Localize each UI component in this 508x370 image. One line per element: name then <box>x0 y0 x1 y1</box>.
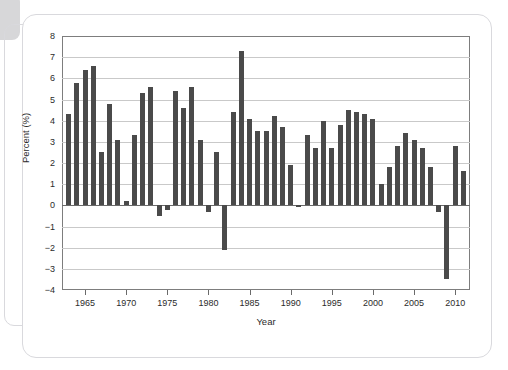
x-axis-tick <box>250 290 251 295</box>
bar <box>296 205 301 207</box>
bar <box>387 167 392 205</box>
chart-figure: Percent (%) Year 876543210−1−2−3−4 19651… <box>0 0 508 370</box>
gridline <box>62 36 470 37</box>
bar <box>338 125 343 205</box>
y-axis-tick-label: 8 <box>50 31 55 41</box>
bar <box>231 112 236 205</box>
bar <box>157 205 162 216</box>
x-axis-tick <box>167 290 168 295</box>
y-axis-tick-label: 0 <box>50 200 55 210</box>
gridline <box>62 100 470 101</box>
bar <box>206 205 211 211</box>
bar <box>189 87 194 206</box>
bar <box>132 135 137 205</box>
bar <box>444 205 449 279</box>
bar <box>124 201 129 205</box>
x-axis-tick <box>414 290 415 295</box>
y-axis-tick-label: 7 <box>50 52 55 62</box>
x-axis-tick-label: 2010 <box>445 298 465 308</box>
x-axis-tick <box>291 290 292 295</box>
y-axis-tick-label: −3 <box>45 264 55 274</box>
gridline <box>62 269 470 270</box>
bar <box>362 114 367 205</box>
y-axis-tick-label: 1 <box>50 179 55 189</box>
x-axis-title: Year <box>62 316 470 327</box>
bar <box>461 171 466 205</box>
gridline <box>62 290 470 291</box>
bar <box>148 87 153 206</box>
bar <box>313 148 318 205</box>
bar <box>264 131 269 205</box>
bar <box>329 148 334 205</box>
x-axis-tick-label: 2005 <box>404 298 424 308</box>
x-axis-tick <box>208 290 209 295</box>
y-axis-tick-label: 4 <box>50 116 55 126</box>
gridline <box>62 121 470 122</box>
y-axis-tick-label: 2 <box>50 158 55 168</box>
bar <box>140 93 145 205</box>
gridline <box>62 78 470 79</box>
x-axis-tick-label: 1990 <box>281 298 301 308</box>
x-axis-tick-label: 1965 <box>75 298 95 308</box>
bar <box>395 146 400 205</box>
gridline <box>62 227 470 228</box>
x-axis-tick-label: 2000 <box>363 298 383 308</box>
plot-area: 876543210−1−2−3−4 1965197019751980198519… <box>62 36 470 290</box>
bar <box>453 146 458 205</box>
bar <box>66 114 71 205</box>
bar <box>91 66 96 206</box>
bar <box>280 127 285 205</box>
bar <box>107 104 112 206</box>
x-axis-tick <box>85 290 86 295</box>
bar <box>214 152 219 205</box>
y-axis-tick-label: −2 <box>45 243 55 253</box>
bar <box>74 83 79 206</box>
y-axis-tick-label: 5 <box>50 95 55 105</box>
bar <box>436 205 441 211</box>
bar <box>222 205 227 249</box>
bar <box>272 116 277 205</box>
y-axis-tick-label: −1 <box>45 222 55 232</box>
y-axis-tick-label: 3 <box>50 137 55 147</box>
bar <box>173 91 178 205</box>
bar <box>288 165 293 205</box>
bar <box>346 110 351 205</box>
bar <box>420 148 425 205</box>
bar <box>428 167 433 205</box>
y-axis-title: Percent (%) <box>20 113 31 163</box>
x-axis-tick <box>373 290 374 295</box>
zero-line <box>62 205 470 206</box>
bar <box>321 121 326 206</box>
y-axis-tick-label: −4 <box>45 285 55 295</box>
x-axis-tick-label: 1985 <box>240 298 260 308</box>
x-axis-tick-label: 1975 <box>157 298 177 308</box>
x-axis-tick <box>126 290 127 295</box>
bar <box>354 112 359 205</box>
bar <box>181 108 186 205</box>
bar <box>247 119 252 206</box>
x-axis-tick-label: 1995 <box>322 298 342 308</box>
x-axis-tick <box>455 290 456 295</box>
gridline <box>62 248 470 249</box>
bar <box>379 184 384 205</box>
bar <box>83 70 88 205</box>
y-axis-tick-label: 6 <box>50 73 55 83</box>
x-axis-tick-label: 1970 <box>116 298 136 308</box>
x-axis-tick-label: 1980 <box>198 298 218 308</box>
bar <box>255 131 260 205</box>
bar <box>99 152 104 205</box>
bar <box>165 205 170 209</box>
x-axis-tick <box>332 290 333 295</box>
bar <box>305 135 310 205</box>
bar <box>403 133 408 205</box>
bar <box>239 51 244 206</box>
bar <box>412 140 417 206</box>
bar <box>198 140 203 206</box>
gridline <box>62 57 470 58</box>
bar <box>370 119 375 206</box>
bar <box>115 140 120 206</box>
